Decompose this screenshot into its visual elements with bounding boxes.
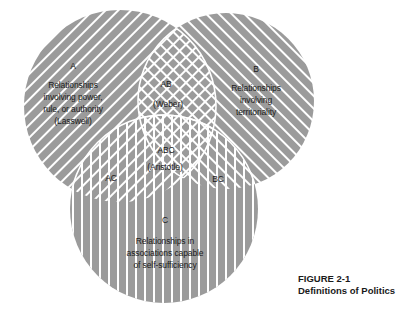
figure-title: Definitions of Politics — [298, 285, 395, 297]
label-c-desc-3: of self-sufficiency — [133, 260, 196, 271]
label-ac: AC — [105, 173, 117, 184]
label-ab: AB — [160, 79, 171, 90]
label-c-desc-2: associations capable — [127, 248, 204, 259]
label-a-desc-2: involving power, — [44, 92, 103, 103]
figure-caption: FIGURE 2-1 Definitions of Politics — [298, 273, 395, 297]
label-b-desc-2: involving — [240, 95, 272, 106]
label-a-desc-4: (Lasswell) — [54, 116, 91, 127]
figure-number: FIGURE 2-1 — [298, 273, 395, 285]
label-ab-note: (Weber) — [153, 99, 183, 110]
label-a-desc-1: Relationships — [48, 80, 98, 91]
label-a-desc-3: rule, or authority — [43, 104, 103, 115]
label-bc: BC — [212, 174, 224, 185]
label-abc: ABC — [157, 145, 174, 156]
label-b-desc-1: Relationships — [231, 83, 281, 94]
label-a: A — [70, 61, 76, 72]
label-b: B — [253, 64, 259, 75]
label-c: C — [162, 215, 168, 226]
label-abc-note: (Aristotle) — [147, 162, 182, 173]
label-b-desc-3: territoriality — [236, 107, 276, 118]
label-c-desc-1: Relationships in — [136, 236, 194, 247]
